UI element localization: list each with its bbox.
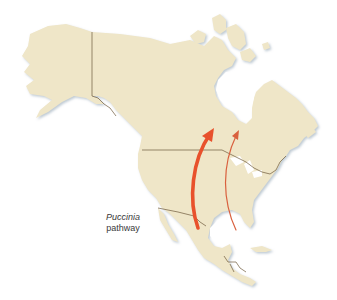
pathway-label-genus: Puccinia [98,212,148,223]
cuba [250,246,272,252]
arctic-island-3 [240,48,256,62]
pathway-label-text: pathway [98,223,148,234]
gulf-of-mexico [210,216,244,244]
arctic-island-2 [226,24,246,50]
arctic-island-1 [212,14,226,34]
pathway-label: Puccinia pathway [98,212,148,234]
arctic-island-4 [262,42,270,50]
mainland [92,32,318,286]
north-america-map [0,0,337,300]
